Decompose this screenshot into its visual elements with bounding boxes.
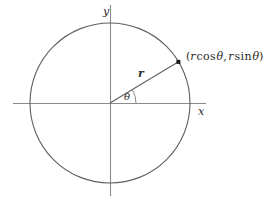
point-sin: sin [234, 50, 251, 63]
y-axis-label: y [103, 6, 109, 17]
unit-circle-figure: y x r θ (rcosθ,rsinθ) [0, 0, 274, 209]
angle-theta-label: θ [124, 92, 130, 102]
point-marker [176, 60, 180, 64]
point-coordinates-label: (rcosθ,rsinθ) [186, 51, 263, 62]
point-cos: cos [196, 50, 216, 63]
angle-arc [132, 90, 136, 103]
x-axis-label: x [198, 106, 204, 117]
point-comma: , [223, 50, 227, 63]
point-r-first: r [190, 50, 195, 63]
radius-line [110, 62, 179, 103]
point-close-paren: ) [259, 50, 263, 63]
figure-canvas [0, 0, 274, 209]
point-r-second: r [228, 50, 233, 63]
radius-label: r [138, 68, 144, 79]
